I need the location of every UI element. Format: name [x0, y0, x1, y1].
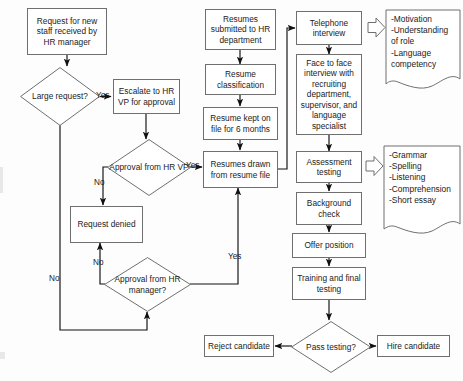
edge-label-approval-mgr-no: No [93, 258, 103, 267]
note-telephone-interview-criteria: -Motivation -Understanding of role -Lang… [391, 14, 459, 70]
edge-label-approval-mgr-yes: Yes [228, 252, 241, 261]
edge-label-large-request-yes: Yes [96, 91, 109, 100]
edge-label-large-request-no: No [49, 274, 59, 283]
edge-label-approval-vp-no: No [94, 178, 104, 187]
note-assessment-testing-criteria: -Grammar -Spelling -Listening -Comprehen… [389, 150, 461, 206]
flowchart-canvas: Request for new staff received by HR man… [0, 0, 463, 381]
edge-label-approval-vp-yes: Yes [186, 161, 199, 170]
